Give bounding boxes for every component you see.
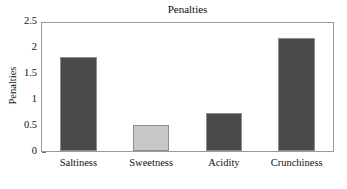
x-axis-tick-labels: SaltinessSweetnessAcidityCrunchiness bbox=[42, 156, 333, 176]
x-tick-label: Acidity bbox=[188, 156, 261, 170]
x-tick-label: Sweetness bbox=[115, 156, 188, 170]
y-tick-label: 2.5 bbox=[24, 15, 37, 27]
bar-slot bbox=[42, 23, 115, 151]
bar-sweetness[interactable] bbox=[133, 125, 169, 151]
x-tick-label: Saltiness bbox=[42, 156, 115, 170]
bar-crunchiness[interactable] bbox=[278, 38, 314, 151]
y-tick-label: 1 bbox=[32, 93, 37, 105]
x-tick-label: Crunchiness bbox=[260, 156, 333, 170]
y-tick-label: 0.5 bbox=[24, 119, 37, 131]
bars-group bbox=[42, 23, 333, 151]
bar-acidity[interactable] bbox=[206, 113, 242, 151]
bar-saltiness[interactable] bbox=[60, 57, 96, 151]
y-tick-label: 0 bbox=[32, 145, 37, 157]
y-tick-label: 1.5 bbox=[24, 67, 37, 79]
y-tick-mark bbox=[42, 152, 46, 153]
bar-chart-figure: Penalties Penalties 00.511.522.5 Saltine… bbox=[0, 0, 347, 189]
bar-slot bbox=[188, 23, 261, 151]
y-tick-label: 2 bbox=[32, 41, 37, 53]
y-axis-tick-labels: 00.511.522.5 bbox=[0, 22, 41, 152]
bar-slot bbox=[115, 23, 188, 151]
chart-title: Penalties bbox=[40, 2, 335, 16]
bar-slot bbox=[260, 23, 333, 151]
